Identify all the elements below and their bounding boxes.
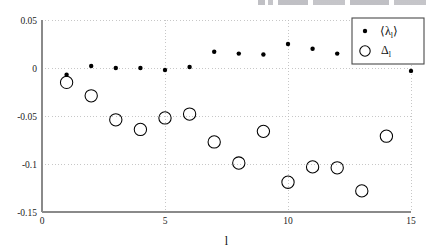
data-point-open (85, 90, 97, 102)
data-point-filled (114, 66, 118, 70)
x-axis-title: l (225, 234, 229, 248)
data-point-filled (138, 66, 142, 70)
data-point-open (257, 125, 269, 137)
data-point-filled (409, 69, 413, 73)
legend-label-lambda: ⟨λl⟩ (380, 24, 398, 40)
data-point-open (356, 185, 368, 197)
scatter-plot: 0.050-0.05-0.1-0.15051015 ⟨λl⟩Δl l (0, 0, 430, 248)
data-point-filled (335, 51, 339, 55)
y-tick-label: -0.05 (17, 112, 37, 122)
data-point-open (134, 123, 146, 135)
y-tick-label: -0.1 (22, 160, 37, 170)
legend[interactable]: ⟨λl⟩Δl (352, 18, 424, 64)
data-point-open (208, 136, 220, 148)
axis-titles: l (225, 234, 229, 248)
data-point-filled (237, 51, 241, 55)
x-tick-label: 5 (163, 216, 168, 226)
y-tick-label: -0.15 (17, 208, 37, 218)
data-point-open (233, 157, 245, 169)
data-point-open (331, 162, 343, 174)
data-series (60, 42, 417, 197)
data-point-open (60, 76, 72, 88)
data-point-filled (212, 49, 216, 53)
data-point-open (380, 130, 392, 142)
data-point-open (306, 161, 318, 173)
x-tick-label: 0 (40, 216, 45, 226)
legend-marker-filled-dot (363, 29, 367, 33)
y-tick-label: 0 (32, 64, 37, 74)
data-point-open (110, 114, 122, 126)
data-point-filled (187, 65, 191, 69)
data-point-filled (89, 64, 93, 68)
data-point-filled (261, 52, 265, 56)
x-tick-label: 10 (283, 216, 293, 226)
data-point-filled (286, 42, 290, 46)
data-point-filled (163, 68, 167, 72)
data-point-open (183, 108, 195, 120)
x-tick-label: 15 (406, 216, 416, 226)
data-point-filled (310, 47, 314, 51)
y-tick-label: 0.05 (20, 16, 37, 26)
figure-container: 0.050-0.05-0.1-0.15051015 ⟨λl⟩Δl l (0, 0, 430, 248)
